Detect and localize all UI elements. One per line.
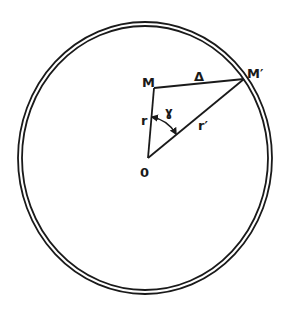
angle-arc-gamma	[152, 117, 176, 134]
label-r: r	[141, 114, 147, 127]
label-point-o: 0	[140, 166, 149, 179]
segment-r	[148, 88, 154, 158]
outer-circle	[18, 22, 272, 294]
label-point-m-prime: M′	[247, 67, 263, 80]
segment-r-prime	[148, 79, 244, 158]
label-point-m: M	[142, 76, 155, 89]
diagram-canvas: M M′ 0 Δ r r′ ɣ	[0, 0, 288, 314]
label-gamma: ɣ	[165, 106, 173, 118]
geometry-figure	[0, 0, 288, 314]
label-r-prime: r′	[198, 119, 208, 132]
inner-circle	[22, 26, 268, 290]
label-delta: Δ	[194, 70, 204, 83]
